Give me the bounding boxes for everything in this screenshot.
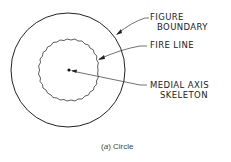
label-figure: FIGURE bbox=[150, 13, 184, 22]
skeleton-point bbox=[67, 68, 70, 71]
medial-axis-arrowhead bbox=[71, 70, 77, 74]
medial-axis-leader bbox=[72, 71, 147, 85]
label-fire-line: FIRE LINE bbox=[150, 41, 194, 50]
fire-line-arrowhead bbox=[98, 55, 105, 60]
label-medial-axis: MEDIAL AXIS bbox=[150, 81, 209, 90]
figure-boundary-arrowhead bbox=[116, 29, 122, 35]
figure-caption: (a) Circle bbox=[101, 142, 133, 151]
caption-text: ) Circle bbox=[108, 142, 133, 151]
label-boundary: BOUNDARY bbox=[157, 23, 208, 32]
label-skeleton: SKELETON bbox=[160, 91, 208, 100]
figure-boundary-leader bbox=[117, 18, 149, 34]
